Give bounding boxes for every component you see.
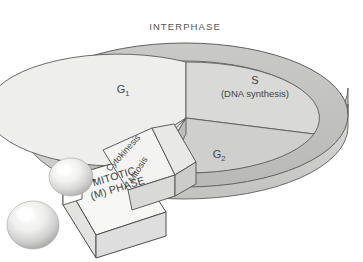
cell-cycle-diagram: INTERPHASE G1 S (DNA synthesis) G2 Cytok… (0, 0, 363, 262)
label-g1-main: G (117, 83, 126, 95)
label-interphase: INTERPHASE (149, 21, 221, 32)
label-g2-subscript: 2 (221, 154, 225, 163)
label-s-subtitle: (DNA synthesis) (221, 88, 289, 99)
label-g1-subscript: 1 (125, 89, 129, 98)
label-s: S (251, 74, 258, 86)
label-g2-main: G (213, 148, 222, 160)
cell-cycle-svg: INTERPHASE G1 S (DNA synthesis) G2 Cytok… (0, 0, 363, 262)
daughter-cell-lower (7, 201, 59, 249)
daughter-cell-upper (49, 158, 93, 196)
